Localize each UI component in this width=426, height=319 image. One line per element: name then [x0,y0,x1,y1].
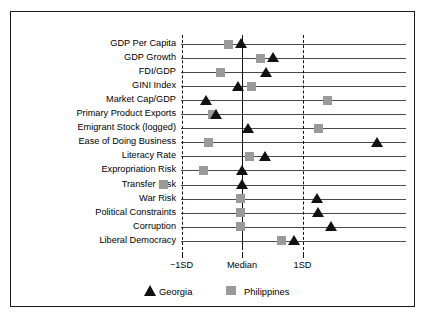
data-point-philippines [236,208,245,217]
data-point-georgia [236,179,248,189]
legend-label-georgia: Georgia [159,286,192,297]
category-rule [181,156,406,157]
category-label: Corruption [11,221,176,231]
data-point-philippines [216,68,225,77]
category-label: Political Constraints [11,207,176,217]
data-point-philippines [236,222,245,231]
data-point-philippines [204,138,213,147]
category-rule [181,100,406,101]
data-point-georgia [235,38,247,48]
reference-line-minus-1sd [182,35,183,250]
category-rule [181,199,406,200]
category-rule [181,58,406,59]
data-point-philippines [277,236,286,245]
data-point-georgia [236,165,248,175]
category-label: Expropriation Risk [11,164,176,174]
legend-label-philippines: Philippines [244,286,289,297]
data-point-georgia [232,81,244,91]
axis-tick [182,252,183,258]
category-label: Literacy Rate [11,150,176,160]
category-label: Primary Product Exports [11,108,176,118]
data-point-philippines [224,40,233,49]
chart-legend: GeorgiaPhilippines [11,284,416,304]
data-point-georgia [267,52,279,62]
category-label: Transfer Risk [11,179,176,189]
category-rule [181,213,406,214]
data-point-georgia [371,137,383,147]
axis-tick [303,252,304,258]
legend-square-marker [226,286,236,296]
category-rule [181,72,406,73]
data-point-philippines [245,152,254,161]
data-point-philippines [314,124,323,133]
data-point-philippines [236,194,245,203]
data-point-philippines [256,54,265,63]
data-point-georgia [259,151,271,161]
category-label: FDI/GDP [11,66,176,76]
category-rule [181,227,406,228]
category-rule [181,128,406,129]
reference-line-plus-1sd [303,35,304,250]
category-rule [181,44,406,45]
category-rule [181,185,406,186]
category-label: Liberal Democracy [11,235,176,245]
data-point-georgia [312,207,324,217]
category-label: GINI Index [11,80,176,90]
chart-plot-area: GDP Per CapitaGDP GrowthFDI/GDPGINI Inde… [11,12,416,308]
chart-frame: GDP Per CapitaGDP GrowthFDI/GDPGINI Inde… [10,11,415,307]
data-point-philippines [199,166,208,175]
data-point-georgia [242,123,254,133]
category-label: Market Cap/GDP [11,94,176,104]
data-point-georgia [311,193,323,203]
category-label: War Risk [11,193,176,203]
category-rule [181,170,406,171]
legend-triangle-marker [144,285,156,296]
reference-line-median [242,35,243,250]
data-point-georgia [210,109,222,119]
category-label: GDP Growth [11,52,176,62]
category-label: Ease of Doing Business [11,136,176,146]
data-point-georgia [325,221,337,231]
category-label: Emigrant Stock (logged) [11,122,176,132]
data-point-philippines [247,82,256,91]
data-point-georgia [200,95,212,105]
axis-tick [242,252,243,258]
data-point-philippines [323,96,332,105]
category-label: GDP Per Capita [11,38,176,48]
axis-tick-label: 1SD [263,260,343,270]
data-point-georgia [260,67,272,77]
data-point-philippines [159,180,168,189]
category-rule [181,86,406,87]
data-point-georgia [288,235,300,245]
